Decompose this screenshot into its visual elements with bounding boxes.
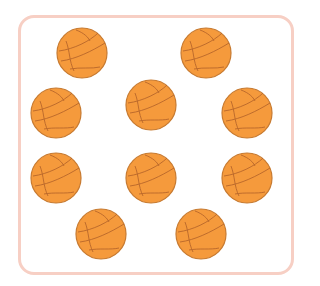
basketball-icon	[30, 152, 82, 204]
basketball-icon	[56, 27, 108, 79]
basketball-icon	[180, 27, 232, 79]
basketball-icon	[30, 87, 82, 139]
basketball-icon	[221, 152, 273, 204]
basketball-icon	[175, 208, 227, 260]
basketball-icon	[75, 208, 127, 260]
basketball-icon	[125, 79, 177, 131]
basketball-icon	[221, 87, 273, 139]
basketball-icon	[125, 152, 177, 204]
